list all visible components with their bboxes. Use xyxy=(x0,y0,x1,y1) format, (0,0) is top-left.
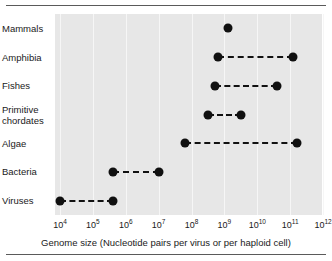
gridline-decade-4 xyxy=(60,14,61,215)
tick-exponent: 8 xyxy=(195,218,199,225)
tick-mantissa: 10 xyxy=(282,220,292,230)
category-label-line: Algae xyxy=(2,138,49,149)
category-label-line: chordates xyxy=(2,115,49,126)
category-label-line: Primitive xyxy=(2,104,49,115)
tick-exponent: 4 xyxy=(63,218,67,225)
range-line xyxy=(218,56,294,58)
data-point-marker xyxy=(210,81,219,90)
gridline-decade-8 xyxy=(192,14,193,215)
gridline-decade-10 xyxy=(257,14,258,215)
x-tick-10e5: 105 xyxy=(86,219,100,231)
data-point-marker xyxy=(213,53,222,62)
gridline-decade-6 xyxy=(126,14,127,215)
category-label-line: Mammals xyxy=(2,23,49,34)
tick-exponent: 6 xyxy=(129,218,133,225)
data-point-marker xyxy=(108,196,117,205)
gridline-decade-7 xyxy=(159,14,160,215)
tick-mantissa: 10 xyxy=(185,220,195,230)
x-tick-10e7: 107 xyxy=(152,219,166,231)
category-label-line: Bacteria xyxy=(2,166,49,177)
data-point-marker xyxy=(108,167,117,176)
category-label-line: Fishes xyxy=(2,80,49,91)
data-point-marker xyxy=(203,110,212,119)
gridline-decade-12 xyxy=(323,14,324,215)
range-line xyxy=(60,200,113,202)
range-line xyxy=(113,171,159,173)
x-tick-10e8: 108 xyxy=(185,219,199,231)
range-line xyxy=(185,142,297,144)
plot-area xyxy=(55,14,322,215)
category-label-algae: Algae xyxy=(2,138,49,149)
tick-exponent: 5 xyxy=(96,218,100,225)
range-line xyxy=(215,85,277,87)
genome-size-figure: MammalsAmphibiaFishesPrimitivechordatesA… xyxy=(0,0,332,261)
data-point-marker xyxy=(56,196,65,205)
tick-mantissa: 10 xyxy=(86,220,96,230)
x-tick-10e9: 109 xyxy=(218,219,232,231)
tick-mantissa: 10 xyxy=(314,220,324,230)
x-axis-tick-labels: 104105106107108109101010111012 xyxy=(0,219,332,235)
data-point-marker xyxy=(223,24,232,33)
x-axis-title: Genome size (Nucleotide pairs per virus … xyxy=(0,236,332,249)
tick-exponent: 12 xyxy=(324,218,331,225)
data-point-marker xyxy=(154,167,163,176)
bottom-rule xyxy=(6,254,326,255)
data-point-marker xyxy=(272,81,281,90)
tick-exponent: 7 xyxy=(162,218,166,225)
category-label-primitive-chordates: Primitivechordates xyxy=(2,104,49,126)
tick-mantissa: 10 xyxy=(53,220,63,230)
tick-exponent: 11 xyxy=(292,218,299,225)
gridline-decade-5 xyxy=(93,14,94,215)
tick-mantissa: 10 xyxy=(218,220,228,230)
x-tick-10e11: 1011 xyxy=(282,219,299,231)
x-tick-10e4: 104 xyxy=(53,219,67,231)
tick-exponent: 10 xyxy=(259,218,266,225)
data-point-marker xyxy=(292,139,301,148)
data-point-marker xyxy=(180,139,189,148)
category-label-amphibia: Amphibia xyxy=(2,52,49,63)
x-tick-10e6: 106 xyxy=(119,219,133,231)
tick-exponent: 9 xyxy=(228,218,232,225)
x-tick-10e10: 1010 xyxy=(249,219,266,231)
x-tick-10e12: 1012 xyxy=(314,219,331,231)
category-label-line: Viruses xyxy=(2,195,49,206)
category-label-viruses: Viruses xyxy=(2,195,49,206)
category-label-mammals: Mammals xyxy=(2,23,49,34)
data-point-marker xyxy=(236,110,245,119)
tick-mantissa: 10 xyxy=(119,220,129,230)
data-point-marker xyxy=(289,53,298,62)
tick-mantissa: 10 xyxy=(152,220,162,230)
tick-mantissa: 10 xyxy=(249,220,259,230)
category-label-fishes: Fishes xyxy=(2,80,49,91)
category-label-bacteria: Bacteria xyxy=(2,166,49,177)
gridline-decade-11 xyxy=(290,14,291,215)
category-label-line: Amphibia xyxy=(2,52,49,63)
